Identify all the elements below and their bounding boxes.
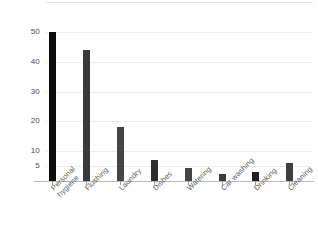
gridline (45, 2, 313, 3)
bar (49, 32, 56, 181)
y-axis-tick-labels: 50403020105 (0, 0, 40, 239)
bar (151, 160, 158, 181)
plot-area (45, 2, 313, 181)
y-tick-label: 40 (4, 58, 40, 66)
y-tick-label: 5 (4, 162, 40, 170)
y-tick-label: 30 (4, 88, 40, 96)
y-tick-label: 10 (4, 147, 40, 155)
gridline (45, 32, 313, 33)
bar-chart: 50403020105 PersonalhygieneFlushingLaund… (0, 0, 318, 239)
y-axis-line (45, 2, 46, 181)
y-tick-label: 50 (4, 28, 40, 36)
y-tick-label: 20 (4, 117, 40, 125)
bar (83, 50, 90, 181)
bar (117, 127, 124, 181)
